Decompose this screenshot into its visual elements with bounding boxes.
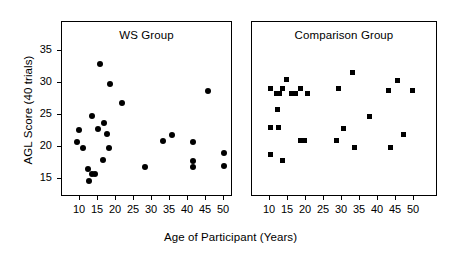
y-axis-label: AGL Score (40 trials) <box>22 20 34 200</box>
data-point <box>280 158 285 163</box>
x-tick <box>223 196 224 200</box>
data-point <box>341 126 346 131</box>
x-tick-label: 40 <box>176 203 198 215</box>
x-tick <box>79 196 80 200</box>
x-tick <box>395 196 396 200</box>
data-point <box>395 78 400 83</box>
x-tick <box>151 196 152 200</box>
data-point <box>268 125 273 130</box>
x-tick-label: 35 <box>348 203 370 215</box>
data-point <box>97 61 103 67</box>
data-point <box>268 86 273 91</box>
scatter-plot-figure: AGL Score (40 trials) Age of Participant… <box>0 0 461 262</box>
data-point <box>268 152 273 157</box>
data-point <box>334 138 339 143</box>
data-point <box>106 145 112 151</box>
data-point <box>275 107 280 112</box>
x-tick-label: 45 <box>194 203 216 215</box>
data-point <box>89 113 95 119</box>
data-point <box>350 70 355 75</box>
x-tick <box>205 196 206 200</box>
x-tick-label: 30 <box>330 203 352 215</box>
data-point <box>305 91 310 96</box>
data-point <box>190 139 196 145</box>
x-tick <box>413 196 414 200</box>
data-point <box>74 139 80 145</box>
x-tick-label: 10 <box>258 203 280 215</box>
x-tick-label: 15 <box>86 203 108 215</box>
x-tick <box>377 196 378 200</box>
data-point <box>367 114 372 119</box>
x-tick-label: 30 <box>140 203 162 215</box>
data-point <box>277 91 282 96</box>
data-point <box>221 163 227 169</box>
x-tick <box>305 196 306 200</box>
x-tick-label: 40 <box>366 203 388 215</box>
x-tick-label: 20 <box>294 203 316 215</box>
data-point <box>76 127 82 133</box>
data-point <box>86 178 92 184</box>
data-point <box>190 164 196 170</box>
data-point <box>119 100 125 106</box>
x-tick <box>359 196 360 200</box>
x-tick-label: 25 <box>122 203 144 215</box>
x-tick-label: 50 <box>212 203 234 215</box>
data-point <box>276 125 281 130</box>
x-tick <box>97 196 98 200</box>
data-point <box>101 120 107 126</box>
x-tick-label: 45 <box>384 203 406 215</box>
plot-area-comparison <box>252 22 436 195</box>
data-point <box>401 132 406 137</box>
data-point <box>280 86 285 91</box>
data-point <box>100 157 106 163</box>
panel-ws-group: WS Group <box>61 21 232 196</box>
x-tick-label: 10 <box>68 203 90 215</box>
x-tick <box>115 196 116 200</box>
x-tick-label: 20 <box>104 203 126 215</box>
data-point <box>293 91 298 96</box>
data-point <box>284 77 289 82</box>
x-tick-label: 35 <box>158 203 180 215</box>
data-point <box>160 138 166 144</box>
x-tick <box>287 196 288 200</box>
plot-area-ws <box>62 22 231 195</box>
data-point <box>388 145 393 150</box>
data-point <box>302 138 307 143</box>
data-point <box>386 88 391 93</box>
data-point <box>298 86 303 91</box>
data-point <box>205 88 211 94</box>
x-tick-label: 50 <box>402 203 424 215</box>
x-axis-label: Age of Participant (Years) <box>0 231 461 243</box>
x-tick <box>133 196 134 200</box>
data-point <box>142 164 148 170</box>
data-point <box>104 131 110 137</box>
data-point <box>352 145 357 150</box>
x-tick <box>187 196 188 200</box>
data-point <box>221 150 227 156</box>
panel-comparison-group: Comparison Group <box>251 21 437 196</box>
data-point <box>80 145 86 151</box>
x-tick <box>323 196 324 200</box>
x-tick-label: 25 <box>312 203 334 215</box>
data-point <box>92 171 98 177</box>
x-tick <box>269 196 270 200</box>
x-tick <box>169 196 170 200</box>
data-point <box>410 88 415 93</box>
data-point <box>336 86 341 91</box>
x-tick-label: 15 <box>276 203 298 215</box>
data-point <box>169 132 175 138</box>
data-point <box>95 126 101 132</box>
data-point <box>107 81 113 87</box>
x-tick <box>341 196 342 200</box>
